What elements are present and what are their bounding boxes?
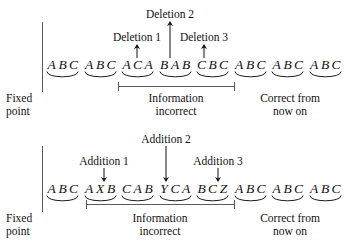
sequence-letter: C: [218, 58, 229, 72]
codon-group: YCA: [159, 182, 192, 196]
fixed-point-label-additions: Fixed point: [6, 212, 32, 238]
codon-brace: [309, 195, 342, 202]
marker-label-deletion-1: Deletion 1: [113, 31, 161, 43]
region-label-line1: Information: [133, 212, 188, 225]
sequence-letter: A: [234, 182, 245, 196]
sequence-letter: B: [320, 58, 331, 72]
sequence-letter: B: [106, 182, 117, 196]
codon-group: ABC: [309, 58, 342, 72]
codon-group: CAB: [121, 182, 154, 196]
codon-brace: [271, 71, 304, 78]
sequence-letter: A: [309, 182, 320, 196]
sequence-letter: C: [293, 58, 304, 72]
sequence-letter: A: [271, 58, 282, 72]
sequence-letter: C: [293, 182, 304, 196]
marker-label-addition-2: Addition 2: [141, 133, 191, 145]
marker-label-addition-3: Addition 3: [193, 155, 243, 167]
fixed-point-label-line2: point: [6, 105, 32, 118]
codon-group: ABC: [46, 182, 79, 196]
marker-label-addition-1: Addition 1: [79, 155, 129, 167]
sequence-additions: ABC AXB CAB YCA BCZ ABC ABC ABC: [46, 182, 342, 196]
region-label-line1: Information: [149, 92, 204, 105]
fixed-point-label-deletions: Fixed point: [6, 92, 32, 118]
sequence-letter: B: [207, 58, 218, 72]
sequence-letter: B: [245, 182, 256, 196]
codon-brace: [121, 71, 154, 78]
sequence-letter: A: [84, 58, 95, 72]
sequence-letter: A: [181, 182, 192, 196]
sequence-letter: B: [57, 58, 68, 72]
region-bracket-additions: [86, 200, 235, 209]
codon-brace: [84, 71, 117, 78]
sequence-letter: B: [196, 182, 207, 196]
sequence-letter: B: [245, 58, 256, 72]
sequence-letter: B: [282, 58, 293, 72]
sequence-letter: A: [46, 58, 57, 72]
codon-group: BAB: [159, 58, 192, 72]
region-label-deletions: Information incorrect: [149, 92, 204, 118]
sequence-letter: C: [106, 58, 117, 72]
sequence-letter: C: [68, 58, 79, 72]
sequence-letter: Y: [159, 182, 170, 196]
codon-group: ABC: [46, 58, 79, 72]
correct-region-label-deletions: Correct from now on: [260, 92, 320, 118]
region-label-line2: incorrect: [133, 225, 188, 238]
marker-arrow-addition-3: [213, 168, 223, 182]
sequence-letter: A: [234, 58, 245, 72]
marker-label-deletion-3: Deletion 3: [180, 31, 228, 43]
sequence-letter: A: [271, 182, 282, 196]
sequence-letter: A: [309, 58, 320, 72]
sequence-letter: C: [68, 182, 79, 196]
marker-arrow-addition-2: [161, 146, 171, 182]
codon-brace: [46, 195, 79, 202]
deletion-panel: Fixed point Deletion 1 Deletion 2 Deleti…: [0, 0, 350, 125]
sequence-letter: X: [95, 182, 106, 196]
region-bracket-deletions: [118, 82, 235, 91]
sequence-letter: B: [143, 182, 154, 196]
codon-group: AXB: [84, 182, 117, 196]
fixed-point-line-deletions: [42, 22, 43, 92]
correct-label-line2: now on: [260, 225, 320, 238]
region-label-line2: incorrect: [149, 105, 204, 118]
codon-group: ABC: [271, 58, 304, 72]
sequence-letter: C: [331, 58, 342, 72]
fixed-point-label-line1: Fixed: [6, 212, 32, 225]
codon-brace: [234, 195, 267, 202]
sequence-letter: C: [132, 58, 143, 72]
sequence-letter: A: [132, 182, 143, 196]
sequence-letter: C: [170, 182, 181, 196]
fixed-point-label-line1: Fixed: [6, 92, 32, 105]
sequence-deletions: ABC ABC ACA BAB CBC ABC ABC ABC: [46, 58, 342, 72]
codon-group: ABC: [234, 182, 267, 196]
codon-group: CBC: [196, 58, 229, 72]
sequence-letter: A: [170, 58, 181, 72]
sequence-letter: Z: [218, 182, 229, 196]
marker-arrow-addition-1: [99, 168, 109, 182]
codon-group: BCZ: [196, 182, 229, 196]
codon-brace: [196, 71, 229, 78]
fixed-point-line-additions: [42, 146, 43, 212]
sequence-letter: B: [95, 58, 106, 72]
sequence-letter: C: [196, 58, 207, 72]
correct-label-line2: now on: [260, 105, 320, 118]
marker-arrow-deletion-1: [132, 44, 142, 58]
codon-group: ABC: [234, 58, 267, 72]
codon-group: ABC: [309, 182, 342, 196]
sequence-letter: C: [256, 182, 267, 196]
sequence-letter: C: [331, 182, 342, 196]
sequence-letter: C: [256, 58, 267, 72]
sequence-letter: B: [181, 58, 192, 72]
sequence-letter: A: [46, 182, 57, 196]
codon-brace: [234, 71, 267, 78]
marker-arrow-deletion-2: [165, 21, 175, 58]
sequence-letter: B: [282, 182, 293, 196]
correct-label-line1: Correct from: [260, 92, 320, 105]
sequence-letter: C: [207, 182, 218, 196]
addition-panel: Fixed point Addition 1 Addition 2 Additi…: [0, 126, 350, 251]
codon-group: ABC: [84, 58, 117, 72]
sequence-letter: B: [57, 182, 68, 196]
codon-brace: [271, 195, 304, 202]
codon-group: ABC: [271, 182, 304, 196]
sequence-letter: A: [143, 58, 154, 72]
sequence-letter: B: [159, 58, 170, 72]
